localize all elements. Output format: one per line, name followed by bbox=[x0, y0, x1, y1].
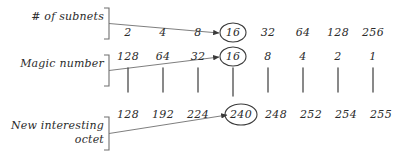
subnets-cell: 2 bbox=[111, 26, 145, 39]
magic-number-cell: 32 bbox=[181, 50, 215, 63]
new-octet-cell: 252 bbox=[294, 108, 328, 121]
subnets-cell: 32 bbox=[251, 26, 285, 39]
magic-number-cell-highlighted: 16 bbox=[216, 50, 250, 63]
column-tick-marks bbox=[128, 68, 373, 96]
subnets-cell: 4 bbox=[146, 26, 180, 39]
new-octet-cell: 254 bbox=[329, 108, 363, 121]
subnetting-diagram: # of subnets Magic number New interestin… bbox=[0, 0, 399, 157]
magic-number-cell: 128 bbox=[111, 50, 145, 63]
bracket-magic-number bbox=[104, 55, 109, 86]
subnets-cell-highlighted: 16 bbox=[216, 26, 250, 39]
bracket-subnets bbox=[104, 8, 109, 39]
new-octet-cell-highlighted: 240 bbox=[224, 108, 258, 121]
subnets-cell: 256 bbox=[356, 26, 390, 39]
new-octet-cell: 128 bbox=[111, 108, 145, 121]
new-octet-cell: 255 bbox=[364, 108, 398, 121]
row-label-magic-number: Magic number bbox=[0, 57, 104, 71]
new-octet-cell: 192 bbox=[146, 108, 180, 121]
new-octet-cell: 224 bbox=[181, 108, 215, 121]
magic-number-cell: 64 bbox=[146, 50, 180, 63]
magic-number-cell: 4 bbox=[286, 50, 320, 63]
subnets-cell: 128 bbox=[321, 26, 355, 39]
subnets-cell: 64 bbox=[286, 26, 320, 39]
bracket-new-octet bbox=[104, 117, 109, 150]
magic-number-cell: 8 bbox=[251, 50, 285, 63]
new-octet-cell: 248 bbox=[259, 108, 293, 121]
subnets-cell: 8 bbox=[181, 26, 215, 39]
row-label-new-octet: New interesting octet bbox=[0, 119, 104, 147]
row-label-subnets: # of subnets bbox=[0, 10, 104, 24]
magic-number-cell: 1 bbox=[356, 50, 390, 63]
magic-number-cell: 2 bbox=[321, 50, 355, 63]
